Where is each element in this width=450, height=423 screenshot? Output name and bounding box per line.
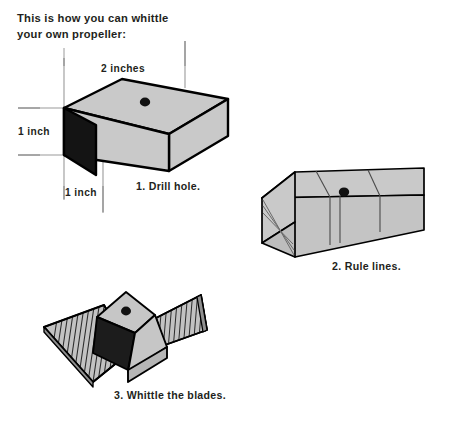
drill-hole-step-3 — [121, 307, 131, 316]
figure-3-whittle-blades — [0, 0, 450, 423]
caption-step-3: 3. Whittle the blades. — [114, 389, 226, 401]
illustration-stage: This is how you can whittle your own pro… — [0, 0, 450, 423]
